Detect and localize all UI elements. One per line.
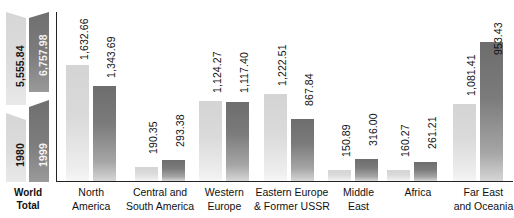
bar-rect-1999 — [93, 86, 116, 181]
bar-value-label-1999: 953.43 — [479, 12, 504, 66]
bar-1999: 261.21 — [414, 12, 437, 181]
category-label: Africa — [387, 185, 448, 213]
bar-value-label-1980: 160.27 — [386, 114, 411, 168]
category-label-line1: North — [57, 185, 125, 199]
category-label: WesternEurope — [195, 185, 254, 213]
bar-1980: 160.27 — [387, 12, 410, 181]
bar-1999: 1,343.69 — [93, 12, 116, 181]
category-label-line1: Far East — [448, 185, 514, 199]
world-total-caption: World Total — [0, 186, 56, 212]
bar-value-label-1980: 1,124.27 — [198, 45, 223, 99]
bar-chart: 5,555.84 1980 6,757.98 1999 World Total … — [0, 0, 514, 218]
category-label-line2: Europe — [195, 199, 254, 213]
bar-value-label-1980: 190.35 — [134, 111, 159, 165]
category-label: Far Eastand Oceania — [448, 185, 514, 213]
bar-1980: 150.89 — [328, 12, 351, 181]
bar-1980: 1,632.66 — [66, 12, 89, 181]
bar-value-label-1999: 293.38 — [161, 104, 186, 158]
bar-group: 150.89316.00 — [324, 12, 381, 181]
bar-value-label-1999: 316.00 — [354, 103, 379, 157]
bar-1980: 1,124.27 — [199, 12, 222, 181]
bar-group: 1,222.51867.84 — [254, 12, 324, 181]
legend-label-1980: 1980 — [6, 130, 26, 180]
bar-group: 1,081.41953.43 — [443, 12, 513, 181]
x-axis-line — [56, 181, 513, 182]
bar-groups: 1,632.661,343.69190.35293.381,124.271,11… — [57, 12, 513, 181]
category-label-line1: Western — [195, 185, 254, 199]
bar-rect-1999 — [162, 160, 185, 181]
bar-1980: 1,081.41 — [453, 12, 476, 181]
world-total-value-1980: 5,555.84 — [6, 30, 26, 102]
category-label-line2 — [387, 199, 448, 213]
bar-value-label-1999: 1,343.69 — [92, 30, 117, 84]
category-label: MiddleEast — [330, 185, 387, 213]
plot-area: 1,632.661,343.69190.35293.381,124.271,11… — [56, 12, 513, 182]
bar-value-label-1999: 261.21 — [413, 106, 438, 160]
bar-1980: 190.35 — [135, 12, 158, 181]
world-total-value-1999: 6,757.98 — [29, 20, 49, 90]
bar-1999: 316.00 — [355, 12, 378, 181]
bar-rect-1980 — [135, 167, 158, 181]
category-label-line2: East — [330, 199, 387, 213]
bar-group: 160.27261.21 — [382, 12, 443, 181]
bar-rect-1980 — [264, 94, 287, 181]
bar-rect-1980 — [66, 65, 89, 181]
world-total-caption-line1: World — [0, 186, 56, 199]
category-label-line1: Middle — [330, 185, 387, 199]
bar-1999: 867.84 — [291, 12, 314, 181]
category-label-line2: and Oceania — [448, 199, 514, 213]
bar-value-label-1999: 867.84 — [290, 63, 315, 117]
bar-group: 1,632.661,343.69 — [57, 12, 125, 181]
x-axis-category-labels: NorthAmericaCentral andSouth AmericaWest… — [57, 185, 513, 213]
bar-1980: 1,222.51 — [264, 12, 287, 181]
world-total-legend-panel: 5,555.84 1980 6,757.98 1999 World Total — [0, 0, 56, 218]
world-total-bar-1999: 6,757.98 1999 — [29, 12, 49, 182]
category-label-line2: & Former USSR — [254, 199, 330, 213]
bar-group: 190.35293.38 — [125, 12, 194, 181]
category-label: NorthAmerica — [57, 185, 125, 213]
bar-rect-1980 — [328, 170, 351, 181]
category-label-line1: Eastern Europe — [254, 185, 330, 199]
bar-value-label-1980: 1,222.51 — [263, 38, 288, 92]
bar-value-label-1999: 1,117.40 — [225, 46, 250, 100]
bar-rect-1999 — [355, 159, 378, 181]
legend-label-1999: 1999 — [29, 130, 49, 180]
bar-rect-1980 — [199, 101, 222, 181]
bar-group: 1,124.271,117.40 — [195, 12, 254, 181]
bar-rect-1980 — [387, 170, 410, 181]
bar-1999: 953.43 — [480, 12, 503, 181]
bar-rect-1999 — [414, 162, 437, 181]
category-label-line2: America — [57, 199, 125, 213]
bar-1999: 293.38 — [162, 12, 185, 181]
bar-rect-1980 — [453, 104, 476, 181]
world-total-caption-line2: Total — [0, 199, 56, 212]
category-label: Central andSouth America — [125, 185, 194, 213]
bar-rect-1999 — [226, 102, 249, 181]
bar-value-label-1980: 1,081.41 — [452, 48, 477, 102]
bar-1999: 1,117.40 — [226, 12, 249, 181]
category-label-line1: Africa — [387, 185, 448, 199]
category-label-line1: Central and — [125, 185, 194, 199]
category-label-line2: South America — [125, 199, 194, 213]
bar-rect-1999 — [291, 119, 314, 181]
world-total-bar-1980: 5,555.84 1980 — [6, 12, 26, 182]
bar-value-label-1980: 1,632.66 — [65, 12, 90, 66]
bar-value-label-1980: 150.89 — [327, 114, 352, 168]
category-label: Eastern Europe& Former USSR — [254, 185, 330, 213]
